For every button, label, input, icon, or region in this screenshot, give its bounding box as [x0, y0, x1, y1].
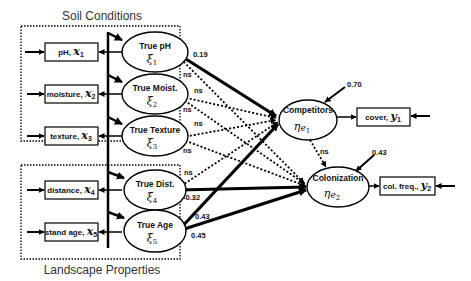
coef-texture-colonization: ns [183, 146, 192, 155]
svg-text:Colonization: Colonization [313, 173, 364, 183]
svg-text:True Texture: True Texture [130, 125, 181, 135]
indicator-y1: cover, y1 [337, 108, 430, 126]
coef-ph-colonization: ns [183, 70, 192, 79]
svg-text:Competitors: Competitors [283, 105, 333, 115]
coef-dist-competitors: ns [184, 168, 193, 177]
structural-equation-model-diagram: Soil Conditions Landscape Properties pH,… [0, 0, 471, 281]
svg-text:True Dist.: True Dist. [136, 179, 175, 189]
latent-xi1: True pH ξ1 [122, 32, 188, 72]
svg-text:True Age: True Age [137, 220, 173, 230]
coef-moist-colonization: ns [183, 105, 192, 114]
latent-xi3: True Texture ξ3 [122, 116, 188, 156]
latent-xi5: True Age ξ5 [124, 210, 186, 252]
significant-paths [178, 54, 306, 231]
coef-texture-competitors: ns [194, 119, 203, 128]
svg-text:True pH: True pH [139, 41, 171, 51]
coef-age-colonization: 0.45 [191, 231, 206, 240]
colonization-error-value: 0.43 [372, 148, 387, 157]
coef-ph-competitors: 0.19 [193, 50, 208, 59]
svg-text:True Moist.: True Moist. [133, 83, 178, 93]
competitors-error-value: 0.70 [347, 80, 362, 89]
latent-xi2: True Moist. ξ2 [122, 74, 188, 114]
coef-dist-colonization: -0.32 [183, 193, 200, 202]
landscape-properties-title: Landscape Properties [44, 263, 161, 277]
latent-eta1-competitors: Competitors ηe1 0.70 [279, 80, 362, 140]
exogenous-correlation-bar [108, 32, 124, 248]
path-coefficients: 0.19 ns ns ns ns ns ns -0.32 0.43 0.45 n… [183, 50, 329, 240]
latent-xi4: True Dist. ξ4 [124, 170, 186, 210]
coef-moist-competitors: ns [194, 86, 203, 95]
coef-age-competitors: 0.43 [195, 212, 210, 221]
latent-eta2-colonization: Colonization ηe2 0.43 [307, 148, 387, 207]
coef-competitors-colonization: ns [320, 147, 329, 156]
indicator-y2: col. freq., y2 [369, 177, 455, 195]
soil-conditions-title: Soil Conditions [62, 9, 142, 23]
